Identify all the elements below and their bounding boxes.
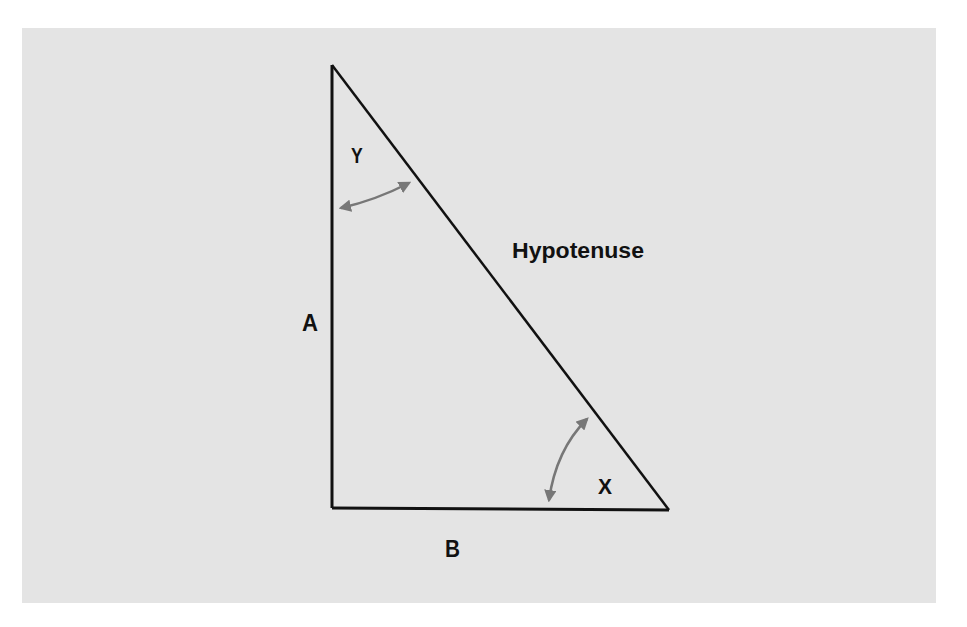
angle-x-label: X: [598, 474, 612, 499]
right-triangle-diagram: Y Hypotenuse A X B: [0, 0, 967, 627]
angle-y-arrow-icon: [341, 183, 409, 208]
side-b-label: B: [445, 535, 460, 562]
side-b-line: [332, 508, 669, 510]
hypotenuse-label: Hypotenuse: [512, 238, 644, 263]
hypotenuse-line: [332, 65, 669, 510]
angle-y-label: Y: [351, 143, 363, 167]
side-a-label: A: [302, 309, 318, 336]
angle-x-arrow-icon: [549, 419, 587, 500]
